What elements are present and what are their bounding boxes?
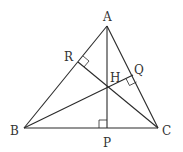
label-p: P [103, 136, 111, 150]
right-angle-mark-p [99, 120, 107, 128]
label-r: R [64, 50, 74, 64]
label-c: C [162, 124, 171, 138]
label-a: A [102, 10, 112, 24]
label-b: B [10, 124, 19, 138]
orthocenter-diagram: A B C P Q R H [0, 0, 183, 152]
side-ab [24, 26, 107, 128]
label-h: H [110, 71, 120, 85]
label-q: Q [134, 63, 144, 77]
right-angle-mark-r [83, 56, 89, 67]
